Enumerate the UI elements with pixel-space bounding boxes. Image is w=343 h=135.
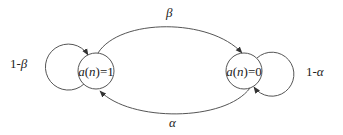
self-loop-s1-label: 1-β bbox=[10, 56, 28, 71]
state-node-0: a(n)=0 bbox=[226, 53, 262, 89]
state-node-1: a(n)=1 bbox=[78, 53, 114, 89]
edge-s0-to-s1 bbox=[100, 88, 250, 114]
state-node-0-label: a(n)=0 bbox=[226, 64, 262, 79]
edge-beta-label: β bbox=[165, 5, 173, 20]
edge-s1-to-s0 bbox=[98, 27, 242, 53]
edge-alpha-label: α bbox=[169, 115, 177, 130]
state-node-1-label: a(n)=1 bbox=[78, 64, 114, 79]
self-loop-s0-label: 1-α bbox=[306, 64, 325, 79]
state-diagram: 1-β 1-α β α a(n)=1 a(n)=0 bbox=[0, 0, 343, 135]
